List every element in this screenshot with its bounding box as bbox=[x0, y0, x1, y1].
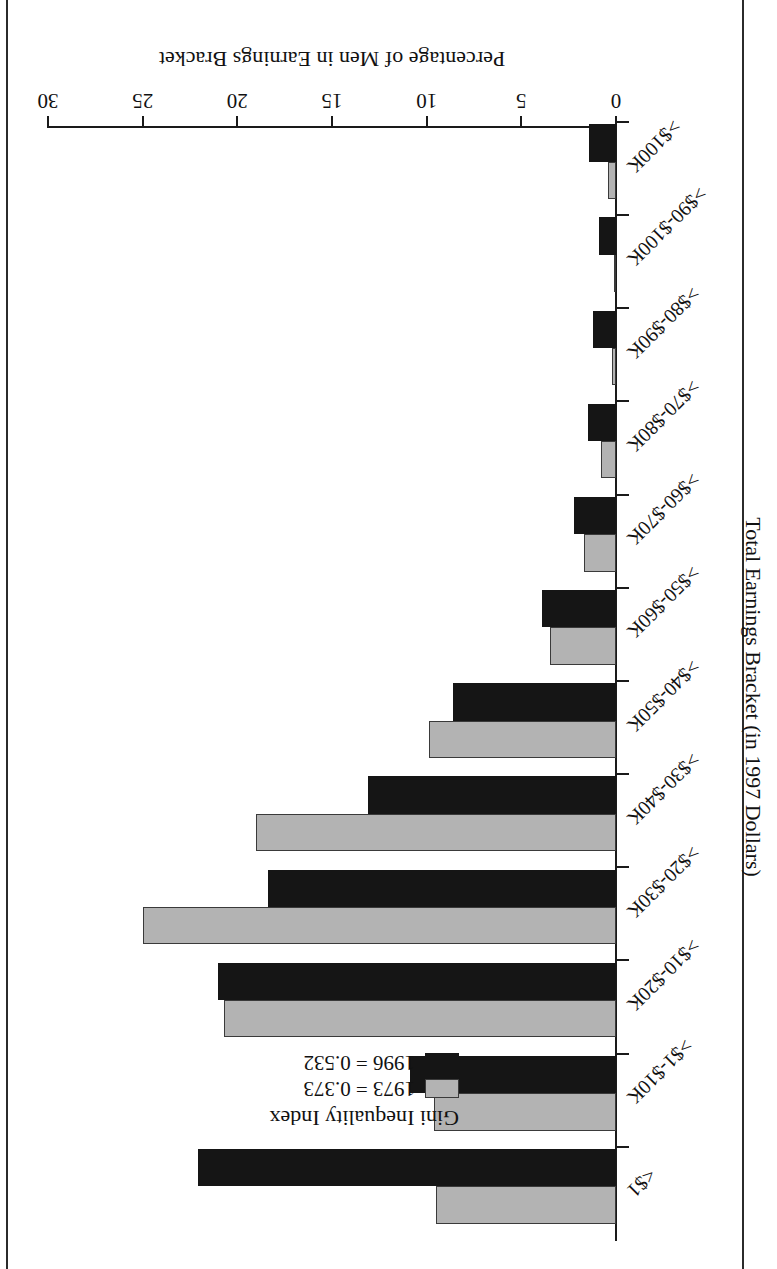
category-axis-tick bbox=[617, 401, 629, 403]
figure-page: 051015202530 <$1>$1-$10K>$10-$20K>$20-$3… bbox=[0, 0, 777, 1269]
bar bbox=[218, 963, 616, 1000]
category-axis-tick bbox=[617, 1146, 629, 1148]
value-axis-end-cap bbox=[47, 117, 49, 128]
value-axis-tick bbox=[331, 116, 333, 126]
bar bbox=[584, 534, 616, 571]
black-swatch bbox=[425, 1053, 459, 1072]
bar bbox=[143, 907, 616, 944]
value-axis-tick bbox=[520, 116, 522, 126]
category-axis-tick bbox=[617, 773, 629, 775]
value-axis-tick-label: 15 bbox=[322, 90, 343, 111]
legend-item-label: 1996 = 0.532 bbox=[303, 1052, 415, 1073]
bar bbox=[256, 814, 616, 851]
bar bbox=[542, 590, 616, 627]
bar bbox=[268, 870, 616, 907]
value-axis-tick-label: 30 bbox=[38, 90, 59, 111]
bar bbox=[614, 255, 616, 292]
legend-item-1973: 1973 = 0.373 bbox=[209, 1078, 459, 1099]
bar bbox=[612, 348, 616, 385]
category-axis-tick bbox=[617, 587, 629, 589]
bar bbox=[574, 497, 616, 534]
bar bbox=[550, 627, 616, 664]
bar bbox=[601, 441, 616, 478]
bar bbox=[588, 404, 616, 441]
legend-item-1996: 1996 = 0.532 bbox=[209, 1052, 459, 1073]
value-axis-tick bbox=[142, 116, 144, 126]
bar bbox=[436, 1186, 616, 1223]
category-axis-tick bbox=[617, 866, 629, 868]
category-axis-tick bbox=[617, 494, 629, 496]
bar bbox=[608, 162, 616, 199]
value-axis-tick-label: 5 bbox=[516, 90, 527, 111]
value-axis-tick-label: 25 bbox=[132, 90, 153, 111]
value-axis-tick-label: 10 bbox=[416, 90, 437, 111]
category-axis-tick bbox=[617, 680, 629, 682]
category-axis-tick bbox=[617, 121, 629, 123]
bar bbox=[434, 1093, 616, 1130]
bar bbox=[599, 217, 616, 254]
value-axis-tick bbox=[236, 116, 238, 126]
bar bbox=[590, 124, 617, 161]
value-axis-tick-label: 20 bbox=[227, 90, 248, 111]
bar bbox=[198, 1149, 616, 1186]
legend-item-label: 1973 = 0.373 bbox=[303, 1078, 415, 1099]
bar bbox=[453, 683, 616, 720]
value-axis-tick-label: 0 bbox=[611, 90, 622, 111]
value-axis-title: Percentage of Men in Earnings Bracket bbox=[48, 47, 616, 71]
bar bbox=[593, 311, 616, 348]
bar bbox=[368, 776, 616, 813]
category-axis-tick bbox=[617, 214, 629, 216]
legend-title: Gini Inequality Index bbox=[209, 1105, 459, 1131]
bar bbox=[224, 1000, 616, 1037]
bar bbox=[429, 721, 616, 758]
category-axis-title: Total Earnings Bracket (in 1997 Dollars) bbox=[741, 317, 765, 1077]
rotated-figure-container: 051015202530 <$1>$1-$10K>$10-$20K>$20-$3… bbox=[0, 0, 777, 1269]
gray-swatch bbox=[425, 1079, 459, 1098]
category-axis-tick bbox=[617, 1053, 629, 1055]
legend: Gini Inequality Index 1973 = 0.373 1996 … bbox=[209, 1052, 459, 1131]
value-axis-tick bbox=[426, 116, 428, 126]
category-axis-tick bbox=[617, 960, 629, 962]
category-axis-tick bbox=[617, 307, 629, 309]
